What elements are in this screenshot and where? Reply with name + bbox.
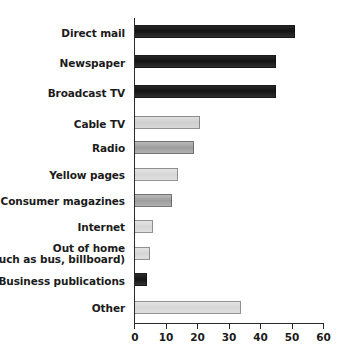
category-label-yellow-pages: Yellow pages: [49, 170, 125, 182]
x-tick-0: [134, 324, 135, 329]
bar-chart: Direct mail Newspaper Broadcast TV Cable…: [0, 0, 349, 364]
bar-newspaper: [134, 55, 276, 68]
bar-broadcast-tv: [134, 85, 276, 98]
x-tick-label-30: 30: [222, 331, 237, 343]
bar-business-publications: [134, 273, 147, 286]
category-label-internet: Internet: [77, 222, 125, 234]
category-label-broadcast-tv: Broadcast TV: [48, 88, 125, 100]
category-label-consumer-magazines: Consumer magazines: [1, 196, 125, 208]
y-axis-line: [134, 18, 135, 324]
bar-consumer-magazines: [134, 194, 172, 207]
bar-yellow-pages: [134, 168, 178, 181]
category-label-other: Other: [92, 303, 125, 315]
x-tick-60: [323, 324, 324, 329]
x-tick-10: [166, 324, 167, 329]
x-tick-label-0: 0: [131, 331, 138, 343]
plot-area: [134, 18, 323, 318]
x-tick-30: [229, 324, 230, 329]
bar-radio: [134, 141, 194, 154]
bar-internet: [134, 220, 153, 233]
bar-out-of-home: [134, 247, 150, 260]
x-tick-label-10: 10: [159, 331, 174, 343]
out-of-home-line-2: (such as bus, billboard): [0, 254, 125, 265]
x-tick-label-20: 20: [190, 331, 205, 343]
category-label-newspaper: Newspaper: [60, 58, 125, 70]
x-tick-40: [260, 324, 261, 329]
bar-cable-tv: [134, 116, 200, 129]
x-tick-label-40: 40: [253, 331, 268, 343]
category-label-radio: Radio: [92, 143, 125, 155]
bar-other: [134, 301, 241, 314]
category-label-business-publications: Business publications: [0, 276, 125, 288]
category-label-cable-tv: Cable TV: [74, 119, 125, 131]
x-tick-label-60: 60: [316, 331, 331, 343]
category-label-direct-mail: Direct mail: [61, 28, 125, 40]
x-tick-20: [197, 324, 198, 329]
x-tick-label-50: 50: [285, 331, 300, 343]
bar-direct-mail: [134, 25, 295, 38]
x-tick-50: [292, 324, 293, 329]
category-label-out-of-home: Out of home (such as bus, billboard): [0, 243, 125, 265]
